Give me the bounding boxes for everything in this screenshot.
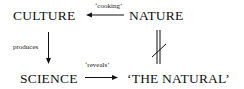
not-equal-icon: [152, 30, 166, 64]
arrow-culture-to-science: [46, 32, 51, 64]
arrow-nature-to-culture: [86, 13, 124, 18]
diagram-edges: [0, 0, 244, 89]
arrow-science-to-natural: [85, 75, 118, 80]
